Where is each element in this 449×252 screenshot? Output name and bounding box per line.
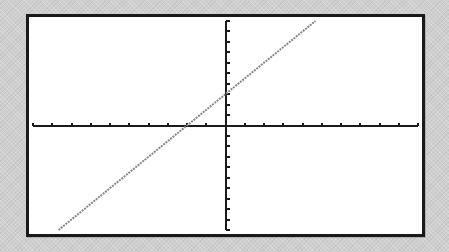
plot-area xyxy=(29,17,422,234)
graph-screen: Graphing calculator screen Y1 = 1.5X + 3 xyxy=(26,14,425,237)
